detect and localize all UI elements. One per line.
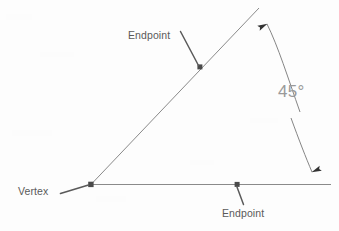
label-endpoint-bottom: Endpoint [222,207,264,219]
angle-diagram-canvas: Endpoint Endpoint Vertex 45° [0,0,339,231]
label-angle-measure: 45° [278,82,305,102]
endpoint-marker-horizontal [235,182,240,187]
label-vertex: Vertex [18,185,48,197]
label-endpoint-top: Endpoint [128,29,170,41]
